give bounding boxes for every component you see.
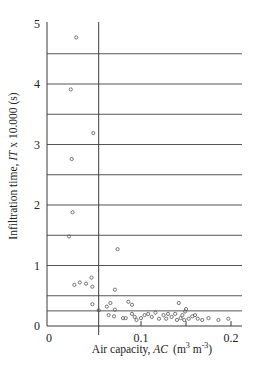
x-tick-label: 0.2: [224, 331, 239, 345]
y-tick-label: 4: [34, 77, 40, 91]
data-point: [90, 276, 93, 279]
data-point: [143, 314, 146, 317]
x-tick-label: 0: [46, 331, 52, 345]
data-point: [75, 36, 78, 39]
data-point: [157, 317, 160, 320]
x-axis-ticks: 00.10.2: [46, 321, 239, 345]
data-point: [130, 312, 133, 315]
data-point: [130, 303, 133, 306]
data-point: [107, 314, 110, 317]
data-point: [85, 282, 88, 285]
data-point: [116, 248, 119, 251]
data-point: [217, 318, 220, 321]
y-tick-label: 3: [34, 138, 40, 152]
y-tick-label: 0: [34, 319, 40, 333]
data-points: [67, 36, 230, 322]
horizontal-gridlines: [47, 54, 242, 311]
data-point: [154, 311, 157, 314]
data-point: [147, 312, 150, 315]
data-point: [227, 317, 230, 320]
data-point: [183, 318, 186, 321]
data-point: [179, 317, 182, 320]
data-point: [73, 283, 76, 286]
data-point: [187, 317, 190, 320]
data-point: [112, 315, 115, 318]
data-point: [109, 301, 112, 304]
data-point: [177, 301, 180, 304]
data-point: [201, 318, 204, 321]
data-point: [166, 312, 169, 315]
data-point: [150, 315, 153, 318]
data-point: [165, 317, 168, 320]
y-tick-label: 5: [34, 17, 40, 31]
data-point: [127, 300, 130, 303]
scatter-chart: 00.10.2 012345 Air capacity, AC(m3 m-3) …: [0, 0, 257, 381]
data-point: [91, 285, 94, 288]
data-point: [133, 315, 136, 318]
data-point: [92, 131, 95, 134]
y-tick-label: 1: [34, 259, 40, 273]
data-point: [113, 288, 116, 291]
x-axis-label: Air capacity, AC(m3 m-3): [92, 341, 213, 356]
y-axis-label: Infiltration time, IT x 10.000 (s): [7, 92, 20, 239]
data-point: [91, 303, 94, 306]
data-point: [207, 317, 210, 320]
y-tick-label: 2: [34, 198, 40, 212]
data-point: [181, 314, 184, 317]
data-point: [170, 315, 173, 318]
data-point: [174, 312, 177, 315]
data-point: [196, 317, 199, 320]
data-point: [135, 318, 138, 321]
data-point: [162, 314, 165, 317]
data-point: [175, 318, 178, 321]
y-axis-ticks: 012345: [34, 17, 40, 334]
data-point: [71, 211, 74, 214]
data-point: [78, 281, 81, 284]
data-point: [139, 317, 142, 320]
data-point: [105, 305, 108, 308]
data-point: [70, 157, 73, 160]
data-point: [69, 88, 72, 91]
